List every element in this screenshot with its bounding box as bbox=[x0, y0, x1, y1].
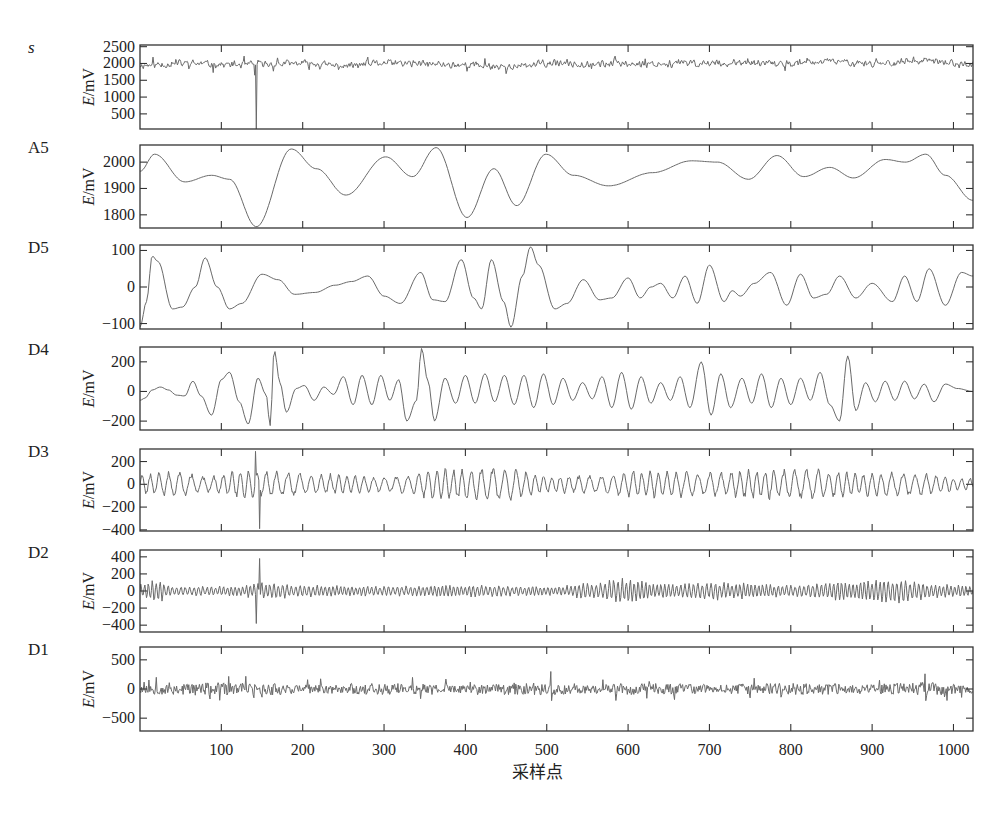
d5-trace bbox=[140, 247, 973, 327]
panel-label: D5 bbox=[28, 238, 49, 257]
y-axis-label: E/mV bbox=[80, 67, 97, 107]
y-tick-label: −100 bbox=[102, 315, 135, 332]
panel-d5: −1000100D5 bbox=[28, 238, 973, 332]
panel-frame bbox=[140, 449, 973, 531]
y-tick-label: 400 bbox=[111, 548, 135, 565]
y-tick-label: 1900 bbox=[103, 179, 135, 196]
x-tick-label: 800 bbox=[779, 741, 803, 758]
panel-label: D3 bbox=[28, 442, 49, 461]
y-axis-label: E/mV bbox=[80, 369, 97, 409]
x-tick-label: 700 bbox=[697, 741, 721, 758]
y-axis-label: E/mV bbox=[80, 167, 97, 207]
wavelet-decomposition-chart: 5001000150020002500sE/mV180019002000A5E/… bbox=[0, 0, 1003, 815]
y-tick-label: −500 bbox=[102, 709, 135, 726]
y-axis-label: E/mV bbox=[80, 470, 97, 510]
d4-trace bbox=[140, 349, 973, 426]
y-tick-label: −200 bbox=[102, 599, 135, 616]
panel-d2: −400−2000200400D2E/mV bbox=[28, 543, 973, 633]
a5-trace bbox=[140, 148, 973, 227]
y-tick-label: 0 bbox=[127, 382, 135, 399]
panel-s: 5001000150020002500sE/mV bbox=[28, 38, 973, 129]
panel-label: D2 bbox=[28, 543, 49, 562]
y-axis-label: E/mV bbox=[80, 571, 97, 611]
y-tick-label: 0 bbox=[127, 278, 135, 295]
x-tick-label: 600 bbox=[616, 741, 640, 758]
y-tick-label: 2500 bbox=[103, 38, 135, 55]
y-axis-label: E/mV bbox=[80, 669, 97, 709]
y-tick-label: 200 bbox=[111, 453, 135, 470]
x-tick-label: 900 bbox=[860, 741, 884, 758]
y-tick-label: 200 bbox=[111, 353, 135, 370]
x-axis-label: 采样点 bbox=[512, 763, 563, 782]
x-tick-label: 200 bbox=[291, 741, 315, 758]
d3-trace bbox=[140, 451, 973, 528]
s-trace bbox=[140, 56, 973, 129]
y-tick-label: −400 bbox=[102, 521, 135, 538]
y-tick-label: 0 bbox=[127, 475, 135, 492]
y-tick-label: 0 bbox=[127, 680, 135, 697]
panel-d3: −400−2000200D3E/mV bbox=[28, 442, 973, 538]
x-tick-label: 300 bbox=[372, 741, 396, 758]
y-tick-label: 500 bbox=[111, 651, 135, 668]
y-tick-label: 500 bbox=[111, 105, 135, 122]
d1-trace bbox=[140, 672, 973, 701]
y-tick-label: −200 bbox=[102, 412, 135, 429]
panel-a5: 180019002000A5E/mV bbox=[28, 138, 973, 228]
panel-frame bbox=[140, 45, 973, 129]
panel-label: A5 bbox=[28, 138, 49, 157]
x-tick-label: 400 bbox=[453, 741, 477, 758]
panel-frame bbox=[140, 347, 973, 430]
y-tick-label: 1800 bbox=[103, 206, 135, 223]
y-tick-label: 100 bbox=[111, 241, 135, 258]
y-tick-label: 200 bbox=[111, 565, 135, 582]
panel-label: s bbox=[28, 38, 35, 57]
panel-d1: −5000500D1E/mV10020030040050060070080090… bbox=[28, 640, 973, 758]
x-tick-label: 500 bbox=[535, 741, 559, 758]
y-tick-label: 1000 bbox=[103, 88, 135, 105]
y-tick-label: 2000 bbox=[103, 153, 135, 170]
y-tick-label: −400 bbox=[102, 616, 135, 633]
y-tick-label: 0 bbox=[127, 582, 135, 599]
d2-trace bbox=[140, 559, 973, 624]
y-tick-label: −200 bbox=[102, 498, 135, 515]
x-tick-label: 1000 bbox=[937, 741, 969, 758]
panel-label: D4 bbox=[28, 340, 49, 359]
chart-canvas: 5001000150020002500sE/mV180019002000A5E/… bbox=[0, 0, 1003, 815]
panel-d4: −2000200D4E/mV bbox=[28, 340, 973, 430]
y-tick-label: 1500 bbox=[103, 71, 135, 88]
panel-label: D1 bbox=[28, 640, 49, 659]
y-tick-label: 2000 bbox=[103, 54, 135, 71]
x-tick-label: 100 bbox=[209, 741, 233, 758]
